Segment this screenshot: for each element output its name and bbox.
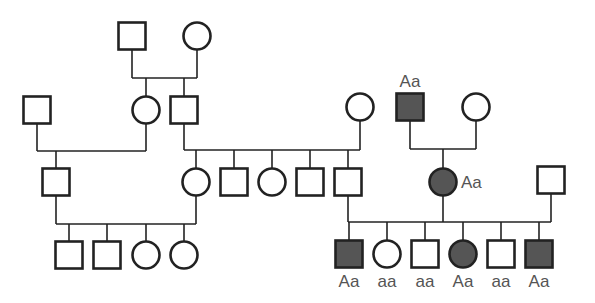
affected-male-square-icon: [397, 94, 424, 121]
male-square-icon: [297, 169, 324, 196]
female-circle-icon: [347, 94, 374, 121]
female-circle-icon: [133, 242, 160, 269]
female-circle-icon: [183, 169, 210, 196]
male-square-icon: [488, 241, 515, 268]
female-circle-icon: [463, 94, 490, 121]
genotype-label: aa: [378, 272, 397, 291]
female-circle-icon: [374, 241, 401, 268]
pedigree-chart: AaAaAaaaaaAaaaAa: [0, 0, 595, 303]
male-square-icon: [335, 169, 362, 196]
female-circle-icon: [259, 169, 286, 196]
male-square-icon: [412, 241, 439, 268]
male-square-icon: [56, 242, 83, 269]
affected-female-circle-icon: [430, 169, 457, 196]
male-square-icon: [24, 97, 51, 124]
male-square-icon: [43, 169, 70, 196]
genotype-label: Aa: [400, 72, 421, 91]
male-square-icon: [171, 97, 198, 124]
genotype-label: Aa: [453, 272, 474, 291]
affected-male-square-icon: [526, 241, 553, 268]
individuals: [24, 23, 565, 269]
genotype-label: aa: [492, 272, 511, 291]
genotype-label: Aa: [461, 173, 482, 192]
female-circle-icon: [171, 242, 198, 269]
female-circle-icon: [184, 23, 211, 50]
male-square-icon: [538, 167, 565, 194]
female-circle-icon: [133, 97, 160, 124]
male-square-icon: [221, 169, 248, 196]
affected-female-circle-icon: [450, 241, 477, 268]
male-square-icon: [119, 23, 146, 50]
relationship-lines: [37, 49, 551, 242]
genotype-label: aa: [416, 272, 435, 291]
affected-male-square-icon: [336, 241, 363, 268]
genotype-label: Aa: [529, 272, 550, 291]
genotype-label: Aa: [339, 272, 360, 291]
male-square-icon: [94, 242, 121, 269]
